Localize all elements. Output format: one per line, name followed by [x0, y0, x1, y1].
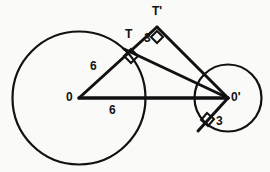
- diagram-canvas: T' T 0 0' 6 6 3 3: [0, 0, 270, 172]
- label-point-T: T: [125, 28, 132, 40]
- geometry-figure: [0, 0, 270, 172]
- segment-Tprime-to-Oprime: [157, 27, 228, 98]
- segment-T-to-Oprime: [124, 49, 228, 98]
- label-point-O: 0: [66, 91, 73, 103]
- label-length-radius-large-horizontal: 6: [109, 104, 116, 116]
- segment-Oprime-to-lower-tangent: [198, 98, 228, 131]
- label-length-radius-large-slant: 6: [90, 60, 97, 72]
- label-length-radius-small-upper: 3: [144, 32, 151, 44]
- label-point-T-prime: T': [152, 5, 162, 17]
- label-point-O-prime: 0': [231, 91, 241, 103]
- label-length-radius-small-lower: 3: [216, 115, 223, 127]
